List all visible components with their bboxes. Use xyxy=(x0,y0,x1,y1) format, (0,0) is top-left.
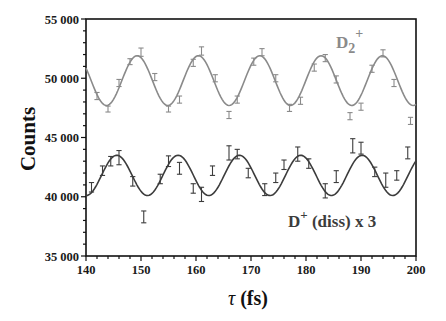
y-axis-title: Counts xyxy=(16,107,40,171)
error-bar-point xyxy=(246,168,251,177)
y-tick-label: 55 000 xyxy=(45,13,79,27)
x-tick-label: 170 xyxy=(242,263,261,277)
error-bar-point xyxy=(177,162,182,174)
error-bar-point xyxy=(350,139,355,153)
y-tick-label: 45 000 xyxy=(45,131,79,145)
counts-vs-delay-chart: 35 00040 00045 00050 00055 000 140150160… xyxy=(0,0,446,321)
error-bar-point xyxy=(334,171,339,183)
series-label-d2plus: D2+ xyxy=(336,26,363,56)
x-tick-label: 160 xyxy=(187,263,206,277)
series-layer xyxy=(86,47,416,223)
fit-curve xyxy=(86,56,416,106)
fit-curve xyxy=(86,155,416,195)
error-bar-point xyxy=(383,173,388,187)
series-d2plus xyxy=(86,47,416,125)
error-bar-point xyxy=(177,96,182,103)
error-bar-point xyxy=(199,47,204,55)
x-tick-label: 200 xyxy=(407,263,426,277)
error-bar-point xyxy=(405,147,410,159)
x-tick-label: 180 xyxy=(297,263,316,277)
x-axis: 140150160170180190200 xyxy=(77,256,426,277)
tau-symbol: τ xyxy=(228,287,236,309)
error-bar-point xyxy=(273,173,278,182)
error-bar-point xyxy=(226,146,231,160)
error-bar-point xyxy=(391,79,396,86)
error-bar-point xyxy=(259,49,264,56)
error-bar-point xyxy=(152,74,157,81)
y-tick-label: 35 000 xyxy=(45,250,79,264)
error-bar-point xyxy=(210,166,215,175)
error-bar-point xyxy=(408,117,413,124)
x-axis-title: τ (fs) xyxy=(228,287,268,310)
error-bar-point xyxy=(226,111,231,118)
error-bar-point xyxy=(358,142,363,154)
error-bar-point xyxy=(394,171,399,180)
x-unit: (fs) xyxy=(240,287,268,310)
y-axis: 35 00040 00045 00050 00055 000 xyxy=(45,13,86,264)
error-bar-point xyxy=(141,211,146,223)
series-dplus-diss xyxy=(86,139,416,223)
y-tick-label: 40 000 xyxy=(45,190,79,204)
x-tick-label: 150 xyxy=(132,263,151,277)
error-bar-point xyxy=(358,103,363,110)
y-tick-label: 50 000 xyxy=(45,72,79,86)
error-bar-point xyxy=(323,184,328,198)
error-bar-point xyxy=(105,106,110,112)
x-tick-label: 140 xyxy=(77,263,96,277)
series-label-dplus-diss: D+ (diss) x 3 xyxy=(288,207,376,231)
error-bar-point xyxy=(347,113,352,120)
error-bar-point xyxy=(295,147,300,161)
error-bar-point xyxy=(199,187,204,201)
error-bar-point xyxy=(166,106,171,112)
x-tick-label: 190 xyxy=(352,263,371,277)
error-bar-point xyxy=(281,160,286,169)
error-bar-point xyxy=(138,48,143,56)
error-bar-point xyxy=(191,184,196,193)
